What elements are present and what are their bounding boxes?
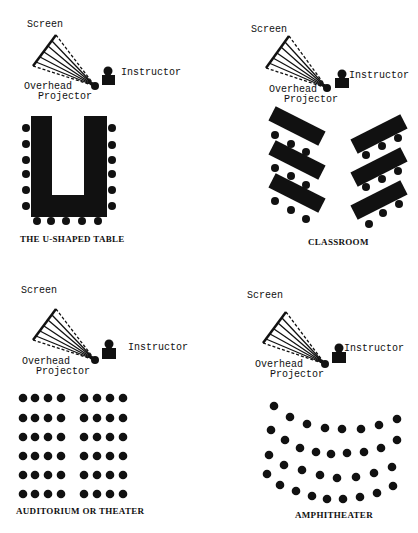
caption-auditorium-or-theater: AUDITORIUM OR THEATER: [16, 506, 144, 516]
projection-beam-icon: [263, 312, 325, 364]
u-shaped-table: [31, 116, 107, 217]
caption-u-shaped-table: THE U-SHAPED TABLE: [20, 234, 125, 244]
panel-amphitheater: Screen Instructor Overhead Projector: [209, 270, 418, 533]
panel-u-shaped-table: Screen Instructor Overhead Projector: [0, 0, 209, 260]
panel-classroom: Screen Instructor Overhead Projector: [209, 0, 418, 260]
instructor-icon: [335, 70, 349, 89]
amphitheater-diagram: [209, 270, 418, 533]
instructor-icon: [102, 67, 115, 86]
auditorium-seats: [19, 394, 128, 499]
classroom-diagram: [209, 0, 418, 260]
projector-icon: [323, 84, 331, 92]
projector-icon: [91, 82, 99, 90]
caption-amphitheater: AMPHITHEATER: [295, 510, 373, 520]
instructor-icon: [332, 344, 346, 364]
projection-beam-icon: [33, 309, 95, 360]
projector-icon: [91, 356, 99, 364]
instructor-icon: [102, 340, 116, 360]
projection-beam-icon: [33, 35, 95, 86]
panel-auditorium: Screen Instructor Overhead Projector: [0, 270, 209, 533]
classroom-tables-left: [268, 106, 325, 213]
amphitheater-seats: [263, 402, 402, 504]
caption-classroom: CLASSROOM: [308, 237, 369, 247]
projection-beam-icon: [266, 36, 327, 88]
auditorium-diagram: [0, 270, 209, 533]
u-shaped-diagram: [0, 0, 209, 260]
projector-icon: [321, 360, 329, 368]
